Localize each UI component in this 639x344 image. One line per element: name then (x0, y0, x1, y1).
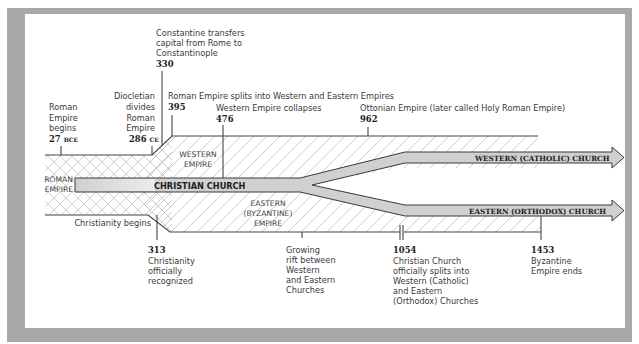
western-church-label: WESTERN (CATHOLIC) CHURCH (474, 154, 610, 163)
svg-text:Diocletian: Diocletian (114, 91, 155, 101)
svg-text:Empire: Empire (126, 123, 155, 133)
svg-text:divides: divides (126, 102, 155, 112)
svg-text:962: 962 (360, 114, 378, 124)
svg-text:Constantine transfers: Constantine transfers (156, 28, 245, 38)
svg-text:Empire ends: Empire ends (531, 266, 582, 276)
timeline-diagram: ROMAN EMPIRE WESTERN EMPIRE EASTERN (BYZ… (0, 0, 639, 344)
svg-text:begins: begins (49, 123, 76, 133)
svg-text:Western: Western (286, 265, 320, 275)
svg-text:1453: 1453 (531, 245, 554, 255)
svg-text:313: 313 (148, 245, 166, 255)
svg-text:Ottonian Empire (later called: Ottonian Empire (later called Holy Roman… (360, 103, 565, 113)
svg-text:Constantinople: Constantinople (156, 48, 218, 58)
svg-text:Christianity: Christianity (148, 256, 195, 266)
eastern-empire-label: EASTERN (250, 199, 285, 208)
svg-text:and Eastern: and Eastern (393, 286, 442, 296)
svg-text:Byzantine: Byzantine (531, 256, 572, 266)
event-christianity-begins: Christianity begins (74, 218, 151, 228)
svg-text:Churches: Churches (286, 285, 324, 295)
event-byzantine-ends: 1453 Byzantine Empire ends (531, 245, 582, 276)
svg-text:Western (Catholic): Western (Catholic) (393, 276, 469, 286)
event-growing-rift: Growing rift between Western and Eastern… (286, 245, 336, 295)
svg-text:395: 395 (168, 102, 186, 112)
event-diocletian-divides: Diocletian divides Roman Empire 286CE (114, 91, 159, 144)
svg-text:(Orthodox) Churches: (Orthodox) Churches (393, 296, 478, 306)
svg-text:Western Empire collapses: Western Empire collapses (216, 103, 321, 113)
svg-text:330: 330 (156, 59, 174, 69)
svg-text:Roman: Roman (126, 113, 155, 123)
svg-text:capital from Rome to: capital from Rome to (156, 38, 242, 48)
svg-text:Roman: Roman (49, 102, 78, 112)
svg-text:Roman Empire splits into Weste: Roman Empire splits into Western and Eas… (168, 91, 394, 101)
svg-text:27BCE: 27BCE (49, 134, 79, 144)
svg-text:Empire: Empire (49, 113, 78, 123)
eastern-church-label: EASTERN (ORTHODOX) CHURCH (469, 207, 606, 216)
svg-text:(BYZANTINE): (BYZANTINE) (244, 209, 293, 218)
event-constantine-transfers: Constantine transfers capital from Rome … (156, 28, 245, 69)
svg-text:EMPIRE: EMPIRE (45, 185, 73, 194)
svg-text:EMPIRE: EMPIRE (254, 219, 282, 228)
svg-text:1054: 1054 (393, 245, 416, 255)
svg-text:officially: officially (148, 266, 182, 276)
svg-text:Christian Church: Christian Church (393, 256, 461, 266)
svg-text:Christianity begins: Christianity begins (74, 218, 151, 228)
event-western-collapses: Western Empire collapses 476 (216, 103, 321, 124)
svg-text:officially splits into: officially splits into (393, 266, 470, 276)
event-church-splits: 1054 Christian Church officially splits … (393, 245, 478, 306)
svg-text:recognized: recognized (148, 276, 193, 286)
event-christianity-recognized: 313 Christianity officially recognized (148, 245, 195, 286)
western-empire-label: WESTERN (179, 150, 217, 159)
event-roman-empire-begins: Roman Empire begins 27BCE (49, 102, 79, 144)
svg-text:476: 476 (216, 114, 234, 124)
svg-text:rift between: rift between (286, 255, 336, 265)
svg-text:EMPIRE: EMPIRE (184, 160, 212, 169)
christian-church-label: CHRISTIAN CHURCH (154, 181, 246, 191)
svg-text:286CE: 286CE (129, 134, 159, 144)
svg-text:and Eastern: and Eastern (286, 275, 335, 285)
event-ottonian-empire: Ottonian Empire (later called Holy Roman… (360, 103, 565, 124)
roman-empire-label: ROMAN (44, 175, 73, 184)
svg-text:Growing: Growing (286, 245, 320, 255)
